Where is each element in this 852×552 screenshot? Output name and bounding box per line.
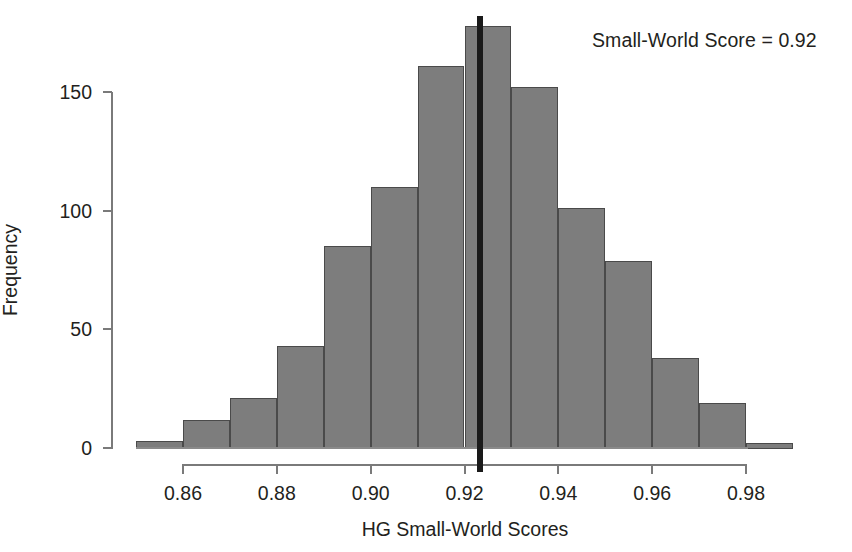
histogram-bar <box>465 26 512 449</box>
x-axis-tick-label: 0.90 <box>352 482 390 505</box>
x-axis-tick <box>745 464 747 474</box>
x-axis-tick <box>557 464 559 474</box>
histogram-bar <box>699 403 746 449</box>
x-axis-tick <box>182 464 184 474</box>
histogram-bar <box>183 420 230 449</box>
histogram-bar <box>277 346 324 449</box>
y-axis-tick <box>103 447 112 449</box>
histogram-figure: Small-World Score = 0.92 Frequency HG Sm… <box>0 0 852 552</box>
y-axis-tick <box>103 91 112 93</box>
x-axis-title: HG Small-World Scores <box>362 518 569 541</box>
y-axis-tick-label: 100 <box>0 199 92 222</box>
plot-area: Small-World Score = 0.92 Frequency HG Sm… <box>0 0 852 552</box>
y-axis-tick-label: 150 <box>0 81 92 104</box>
x-axis-tick <box>370 464 372 474</box>
y-axis-tick <box>103 328 112 330</box>
x-axis-tick <box>276 464 278 474</box>
plot-baseline <box>136 447 748 449</box>
histogram-bar <box>511 87 558 449</box>
y-axis-tick-label: 50 <box>0 318 92 341</box>
histogram-bar <box>558 208 605 449</box>
histogram-bar <box>418 66 465 449</box>
histogram-bar <box>371 187 418 449</box>
y-axis-title: Frequency <box>0 224 22 316</box>
small-world-score-annotation: Small-World Score = 0.92 <box>592 29 817 52</box>
x-axis-tick-label: 0.98 <box>727 482 765 505</box>
score-reference-line <box>477 16 483 472</box>
y-axis-line <box>111 92 113 449</box>
y-axis-tick-label: 0 <box>0 437 92 460</box>
x-axis-tick <box>464 464 466 474</box>
x-axis-tick <box>651 464 653 474</box>
histogram-bar <box>652 358 699 449</box>
x-axis-tick-label: 0.86 <box>164 482 202 505</box>
histogram-bar <box>605 261 652 449</box>
histogram-bar <box>746 443 793 449</box>
x-axis-tick-label: 0.94 <box>539 482 577 505</box>
x-axis-tick-label: 0.92 <box>446 482 484 505</box>
x-axis-tick-label: 0.88 <box>258 482 296 505</box>
histogram-bar <box>324 246 371 449</box>
y-axis-tick <box>103 210 112 212</box>
histogram-bar <box>230 398 277 449</box>
x-axis-tick-label: 0.96 <box>633 482 671 505</box>
